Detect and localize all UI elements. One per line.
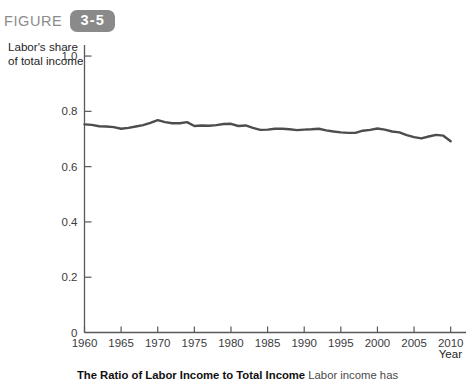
x-tick-label: 1985 <box>255 337 281 349</box>
y-tick-label: 1.0 <box>62 50 78 62</box>
x-tick-label: 1965 <box>108 337 134 349</box>
chart-container: 00.20.40.60.81.0 19601965197019751980198… <box>0 0 475 365</box>
caption-title: The Ratio of Labor Income to Total Incom… <box>77 369 305 381</box>
x-axis-ticks: 1960196519701975198019851990199520002005… <box>72 327 464 349</box>
figure-caption: The Ratio of Labor Income to Total Incom… <box>0 368 475 383</box>
x-tick-label: 1975 <box>182 337 208 349</box>
labor-share-series-line <box>85 120 451 141</box>
caption-body: Labor income has <box>308 369 398 381</box>
x-tick-label: 1980 <box>218 337 244 349</box>
x-tick-label: 1990 <box>291 337 317 349</box>
x-tick-label: 2010 <box>438 337 464 349</box>
y-tick-label: 0.2 <box>62 271 78 283</box>
y-tick-label: 0.4 <box>62 216 79 228</box>
x-tick-label: 1960 <box>72 337 98 349</box>
x-tick-label: 1970 <box>145 337 171 349</box>
x-tick-label: 1995 <box>328 337 354 349</box>
line-chart: 00.20.40.60.81.0 19601965197019751980198… <box>0 0 475 365</box>
x-axis-title-label: Year <box>439 348 462 360</box>
y-tick-label: 0.8 <box>62 105 78 117</box>
y-tick-label: 0.6 <box>62 161 78 173</box>
y-axis-ticks: 00.20.40.60.81.0 <box>62 50 92 338</box>
x-tick-label: 2005 <box>401 337 427 349</box>
x-tick-label: 2000 <box>365 337 391 349</box>
